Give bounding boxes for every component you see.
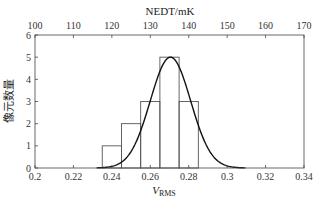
top-x-tick-label: 150 — [220, 20, 235, 31]
histogram-bar — [121, 124, 140, 168]
x-tick-label: 0.3 — [221, 171, 234, 182]
x-tick-label: 0.26 — [142, 171, 160, 182]
top-x-tick-label: 170 — [297, 20, 312, 31]
y-tick-label: 6 — [26, 30, 31, 41]
histogram-bar — [160, 57, 179, 168]
y-tick-label: 2 — [26, 118, 31, 129]
histogram-bars — [102, 57, 198, 168]
top-x-tick-label: 130 — [143, 20, 158, 31]
y-tick-label: 5 — [26, 52, 31, 63]
x-tick-label: 0.22 — [65, 171, 83, 182]
y-tick-label: 4 — [26, 74, 31, 85]
histogram-chart: 0.20.220.240.260.280.30.320.34 100110120… — [0, 0, 327, 210]
x-tick-label: 0.28 — [180, 171, 198, 182]
x-tick-label: 0.34 — [295, 171, 313, 182]
y-tick-label: 0 — [26, 163, 31, 174]
y-axis: 0123456 — [26, 30, 38, 174]
y-tick-label: 1 — [26, 140, 31, 151]
normal-fit-curve — [96, 57, 245, 168]
top-x-tick-label: 160 — [258, 20, 273, 31]
x-tick-label: 0.24 — [103, 171, 121, 182]
plot-frame — [35, 35, 304, 168]
top-x-tick-label: 140 — [181, 20, 196, 31]
x-tick-label: 0.32 — [257, 171, 275, 182]
top-axis-title: NEDT/mK — [146, 5, 195, 17]
x-axis-title: VRMS — [152, 184, 176, 198]
histogram-bar — [179, 102, 198, 169]
histogram-bar — [141, 102, 160, 169]
top-x-tick-label: 120 — [104, 20, 119, 31]
top-x-tick-label: 110 — [66, 20, 81, 31]
y-axis-title: 像元数量 — [3, 79, 15, 123]
y-tick-label: 3 — [26, 96, 31, 107]
